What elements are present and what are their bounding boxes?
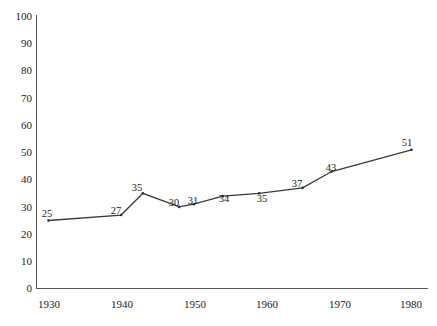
data-label-1940: 27 <box>105 206 127 217</box>
x-tick-label-1980: 1980 <box>391 299 431 310</box>
series-line-1 <box>49 150 412 221</box>
data-label-1950: 31 <box>182 196 204 207</box>
x-tick-label-1960: 1960 <box>247 299 287 310</box>
data-label-1980: 51 <box>396 138 418 149</box>
data-point <box>410 148 413 151</box>
data-label-1943: 35 <box>126 183 148 194</box>
data-label-1930: 25 <box>36 209 58 220</box>
y-tick-label-0: 0 <box>6 283 32 294</box>
y-tick-label-30: 30 <box>6 202 32 213</box>
y-tick-label-90: 90 <box>6 38 32 49</box>
series-group-series-1 <box>47 148 413 221</box>
data-label-1965: 37 <box>286 179 308 190</box>
x-tick-label-1930: 1930 <box>29 299 69 310</box>
data-label-1954: 34 <box>213 194 235 205</box>
line-chart: 100 90 80 70 60 50 40 30 20 10 0 1930 19… <box>0 0 437 326</box>
data-label-1959: 35 <box>251 194 273 205</box>
y-tick-label-70: 70 <box>6 93 32 104</box>
y-tick-label-80: 80 <box>6 65 32 76</box>
y-tick-label-60: 60 <box>6 120 32 131</box>
y-tick-label-40: 40 <box>6 174 32 185</box>
y-tick-label-100: 100 <box>6 11 32 22</box>
y-tick-label-50: 50 <box>6 147 32 158</box>
y-tick-label-20: 20 <box>6 229 32 240</box>
data-label-1969: 43 <box>320 163 342 174</box>
x-tick-label-1970: 1970 <box>320 299 360 310</box>
axes-group <box>37 15 429 289</box>
data-point <box>47 219 50 222</box>
y-tick-label-10: 10 <box>6 256 32 267</box>
chart-canvas <box>0 0 437 326</box>
x-tick-label-1940: 1940 <box>102 299 142 310</box>
x-tick-label-1950: 1950 <box>175 299 215 310</box>
series-points-1 <box>47 148 413 221</box>
